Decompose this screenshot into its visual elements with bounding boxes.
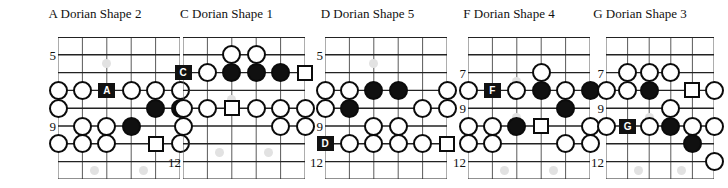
note-marker-open — [683, 117, 702, 136]
note-marker-filled — [532, 81, 551, 100]
note-marker-square — [224, 100, 240, 116]
note-marker-open — [340, 81, 359, 100]
note-marker-open — [49, 99, 68, 118]
grid-lines — [606, 37, 714, 179]
note-marker-filled — [507, 117, 526, 136]
diagram-title: C Dorian Shape 1 — [148, 6, 305, 22]
note-marker-open — [532, 63, 551, 82]
root-note-marker: F — [484, 83, 501, 98]
note-marker-open — [316, 81, 335, 100]
note-marker-open — [316, 99, 335, 118]
note-marker-open — [174, 99, 193, 118]
root-note-marker: C — [175, 65, 192, 80]
note-marker-open — [618, 81, 637, 100]
fret-number: 12 — [433, 156, 466, 169]
note-marker-open — [73, 81, 92, 100]
note-marker-open — [247, 99, 266, 118]
fret-number: 9 — [440, 102, 466, 115]
note-marker-open — [483, 117, 502, 136]
fret-number: 12 — [291, 156, 323, 169]
note-marker-open — [49, 134, 68, 153]
fret-number: 7 — [440, 67, 466, 80]
note-marker-open — [73, 117, 92, 136]
root-note-marker: D — [317, 136, 334, 151]
note-marker-filled — [640, 81, 659, 100]
note-marker-open — [597, 81, 616, 100]
fret-number: 9 — [297, 120, 323, 133]
diagram-title: G Dorian Shape 3 — [566, 6, 714, 22]
note-marker-filled — [661, 117, 680, 136]
note-marker-open — [198, 63, 217, 82]
note-marker-open — [174, 117, 193, 136]
fret-inlay-dot — [549, 166, 558, 175]
fret-number: 12 — [569, 156, 604, 169]
note-marker-open — [705, 152, 724, 171]
fret-number: 7 — [578, 67, 604, 80]
fret-number: 9 — [30, 120, 56, 133]
note-marker-square — [533, 118, 549, 134]
note-marker-open — [389, 134, 408, 153]
note-marker-filled — [389, 81, 408, 100]
fret-inlay-dot — [634, 166, 643, 175]
note-marker-filled — [340, 99, 359, 118]
note-marker-open — [97, 117, 116, 136]
note-marker-open — [597, 117, 616, 136]
diagram-title: D Dorian Shape 5 — [288, 6, 447, 22]
note-marker-open — [705, 81, 724, 100]
note-marker-open — [640, 117, 659, 136]
note-marker-open — [122, 81, 141, 100]
note-marker-open — [389, 117, 408, 136]
diagram-g-dorian-shape-3: G Dorian Shape 37912G — [566, 0, 728, 188]
fret-number: 12 — [150, 156, 181, 169]
note-marker-open — [459, 81, 478, 100]
note-marker-open — [661, 99, 680, 118]
note-marker-open — [247, 45, 266, 64]
note-marker-open — [705, 117, 724, 136]
note-marker-open — [364, 117, 383, 136]
note-marker-filled — [247, 63, 266, 82]
note-marker-open — [49, 81, 68, 100]
fret-number: 9 — [578, 102, 604, 115]
root-note-marker: A — [98, 83, 115, 98]
note-marker-open — [198, 99, 217, 118]
root-note-marker: G — [619, 119, 636, 134]
note-marker-square — [684, 82, 700, 98]
note-marker-open — [459, 117, 478, 136]
note-marker-open — [640, 63, 659, 82]
note-marker-open — [459, 134, 478, 153]
fret-number: 5 — [30, 49, 56, 62]
note-marker-filled — [122, 117, 141, 136]
fret-number: 5 — [297, 49, 323, 62]
fretboard-grid — [606, 37, 714, 179]
fret-inlay-dot — [139, 166, 148, 175]
